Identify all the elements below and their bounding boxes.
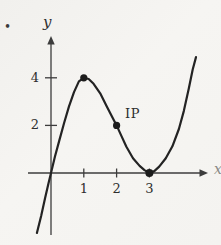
x-tick-label: 1 [77,182,91,195]
y-axis-label: y [43,15,51,30]
axes [28,36,208,235]
y-tick-label: 4 [25,71,39,84]
x-tick-label: 2 [110,182,124,195]
figure-canvas: • y x IP 12324 [0,0,221,245]
ip-inflection-point-dot [113,122,120,129]
x-axis-label-clipped: x [214,162,221,176]
y-axis-arrowhead-icon [47,36,54,45]
local-minimum-dot-on-x-axis [145,169,153,177]
function-curve [37,57,196,233]
x-tick-label: 3 [142,182,156,195]
inflection-point-label: IP [125,107,140,120]
y-tick-label: 2 [25,118,39,131]
key-point-dots [80,74,153,177]
local-maximum-dot [80,74,87,81]
list-bullet: • [4,21,11,33]
x-axis-arrowhead-icon [200,169,209,176]
axis-ticks [45,78,149,178]
